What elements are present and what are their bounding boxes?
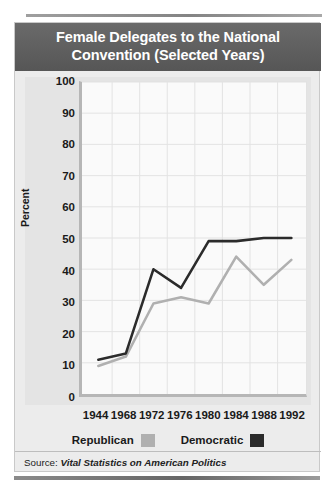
source-note: Source: Vital Statistics on American Pol… bbox=[24, 457, 226, 468]
y-axis-tick-10: 10 bbox=[29, 359, 75, 371]
y-axis-tick-80: 80 bbox=[29, 138, 75, 150]
legend-swatch-republican bbox=[141, 434, 155, 447]
y-axis-tick-100: 100 bbox=[29, 75, 75, 87]
plot-frame: 1009080706050403020100 Percent bbox=[25, 77, 311, 405]
x-axis-tick-1968: 1968 bbox=[111, 409, 137, 421]
x-axis-tick-1992: 1992 bbox=[279, 409, 305, 421]
x-axis-tick-labels: 19441968197219761980198419881992 bbox=[25, 409, 311, 427]
y-axis-tick-70: 70 bbox=[29, 170, 75, 182]
chart-legend: RepublicanDemocratic bbox=[15, 429, 321, 451]
bottom-divider-rule bbox=[14, 476, 320, 480]
source-prefix-label: Source: bbox=[24, 457, 58, 468]
x-axis-tick-1984: 1984 bbox=[223, 409, 249, 421]
chart-title-banner: Female Delegates to the National Convent… bbox=[15, 23, 321, 71]
y-axis-tick-40: 40 bbox=[29, 265, 75, 277]
x-axis-tick-1944: 1944 bbox=[83, 409, 109, 421]
legend-entry-democratic: Democratic bbox=[181, 434, 265, 447]
x-axis-tick-1972: 1972 bbox=[139, 409, 165, 421]
page-title: Female Delegates to the National Convent… bbox=[23, 29, 313, 64]
legend-entry-republican: Republican bbox=[72, 434, 155, 447]
plot-area bbox=[79, 81, 307, 397]
x-axis-tick-1980: 1980 bbox=[195, 409, 221, 421]
x-axis-tick-1976: 1976 bbox=[167, 409, 193, 421]
legend-label-republican: Republican bbox=[72, 434, 134, 446]
series-lines bbox=[82, 82, 306, 394]
y-axis-tick-20: 20 bbox=[29, 328, 75, 340]
y-axis-tick-labels: 1009080706050403020100 bbox=[25, 77, 75, 405]
y-axis-tick-50: 50 bbox=[29, 233, 75, 245]
legend-swatch-democratic bbox=[250, 434, 264, 447]
y-axis-tick-0: 0 bbox=[29, 391, 75, 403]
y-axis-tick-90: 90 bbox=[29, 107, 75, 119]
chart-figure: Female Delegates to the National Convent… bbox=[14, 22, 320, 472]
x-axis-tick-1988: 1988 bbox=[251, 409, 277, 421]
top-divider-rule bbox=[26, 14, 322, 17]
legend-label-democratic: Democratic bbox=[181, 434, 244, 446]
y-axis-tick-30: 30 bbox=[29, 296, 75, 308]
y-axis-tick-60: 60 bbox=[29, 201, 75, 213]
y-axis-label: Percent bbox=[19, 188, 31, 227]
source-title-label: Vital Statistics on American Politics bbox=[61, 457, 227, 468]
source-bar: Source: Vital Statistics on American Pol… bbox=[15, 451, 321, 473]
